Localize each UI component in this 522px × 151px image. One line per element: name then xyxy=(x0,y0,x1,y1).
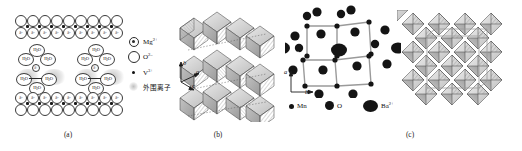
legend-item-o: O2– xyxy=(128,51,153,62)
water-molecule: H2O xyxy=(18,53,34,66)
vanadium-icon xyxy=(128,67,139,78)
oxygen-atom-delta: δ- xyxy=(99,27,111,39)
delta-plus-label: δ+ xyxy=(93,66,97,70)
water-label: H2O xyxy=(103,57,111,62)
figure-root: δ- δ- δ- δ- δ- δ- δ- δ- δ- H2O H2O H2O δ… xyxy=(0,0,522,151)
oxygen-atom xyxy=(87,104,99,116)
delta-plus-label: δ+ xyxy=(34,66,38,70)
axis-label-b: b xyxy=(183,59,186,66)
panel-c-structure: a b Mn O Ba2+ xyxy=(283,2,522,126)
axis-label-a: a xyxy=(196,68,199,75)
mn-icon xyxy=(289,104,294,109)
oxygen-atom-delta: δ- xyxy=(87,27,99,39)
hydrogen-bond xyxy=(88,78,101,79)
panel-c-polyhedral-framework xyxy=(397,10,517,116)
oxygen-atom-delta: δ- xyxy=(27,27,39,39)
water-label: H2O xyxy=(20,77,28,82)
delta-minus-label: δ- xyxy=(103,96,106,100)
axis-label-a: a xyxy=(284,68,287,75)
oxygen-atom-delta: δ- xyxy=(39,27,51,39)
water-label: H2O xyxy=(79,77,87,82)
panel-c-axis-indicator: a b xyxy=(285,68,319,98)
water-label: H2O xyxy=(45,77,53,82)
oxygen-atom xyxy=(63,104,75,116)
caption-b: (b) xyxy=(198,130,238,139)
panel-a-hydration-model: δ- δ- δ- δ- δ- δ- δ- δ- δ- H2O H2O H2O δ… xyxy=(0,0,146,128)
delta-minus-label: δ- xyxy=(43,31,46,35)
water-label: H2O xyxy=(92,86,100,91)
delta-minus-label: δ- xyxy=(67,31,70,35)
delta-minus-label: δ- xyxy=(55,96,58,100)
magnesium-ion: δ+ xyxy=(32,64,40,72)
delta-minus-label: δ- xyxy=(103,31,106,35)
delta-minus-label: δ- xyxy=(31,96,34,100)
delta-minus-label: δ- xyxy=(19,96,22,100)
panel-b-axis-indicator: b a c xyxy=(174,60,204,92)
water-molecule: H2O xyxy=(99,53,115,66)
oxygen-icon xyxy=(325,101,334,110)
oxygen-atom xyxy=(15,104,27,116)
oxygen-atom xyxy=(75,104,87,116)
delta-minus-label: δ- xyxy=(79,96,82,100)
water-molecule: H2O xyxy=(40,53,56,66)
water-label: H2O xyxy=(33,86,41,91)
legend-label: Ba2+ xyxy=(381,101,394,110)
legend-label: Mn xyxy=(297,102,307,110)
delta-minus-label: δ- xyxy=(67,96,70,100)
peripheral-ion-icon xyxy=(128,81,139,92)
hydrogen-bond xyxy=(29,78,42,79)
delta-minus-label: δ- xyxy=(79,31,82,35)
water-label: H2O xyxy=(33,48,41,53)
delta-minus-label: δ- xyxy=(43,96,46,100)
water-label: H2O xyxy=(81,57,89,62)
panel-b-polyhedral-structure: b a c xyxy=(150,2,280,126)
axis-label-c: c xyxy=(192,82,195,89)
oxygen-atom xyxy=(51,104,63,116)
delta-minus-label: δ- xyxy=(115,96,118,100)
water-label: H2O xyxy=(44,57,52,62)
oxygen-icon xyxy=(128,51,139,62)
caption-c: (c) xyxy=(390,130,430,139)
delta-minus-label: δ- xyxy=(91,96,94,100)
oxygen-atom xyxy=(39,104,51,116)
legend-item-ba: Ba2+ xyxy=(363,100,394,112)
legend-label: O xyxy=(337,102,342,110)
oxygen-atom-delta: δ- xyxy=(111,27,123,39)
legend-item-o: O xyxy=(325,101,342,110)
delta-minus-label: δ- xyxy=(55,31,58,35)
oxygen-atom-delta: δ- xyxy=(51,27,63,39)
delta-minus-label: δ- xyxy=(31,31,34,35)
axis-label-b: b xyxy=(305,88,308,95)
ba-icon xyxy=(363,100,378,112)
caption-a: (a) xyxy=(48,130,88,139)
legend-item-mn: Mn xyxy=(289,102,307,110)
delta-minus-label: δ- xyxy=(115,31,118,35)
delta-minus-label: δ- xyxy=(19,31,22,35)
delta-minus-label: δ- xyxy=(91,31,94,35)
water-label: H2O xyxy=(92,48,100,53)
oxygen-atom-delta: δ- xyxy=(15,27,27,39)
water-label: H2O xyxy=(22,57,30,62)
magnesium-ion: δ+ xyxy=(91,64,99,72)
water-label: H2O xyxy=(104,77,112,82)
oxygen-atom xyxy=(99,104,111,116)
oxygen-atom xyxy=(111,104,123,116)
oxygen-atom-delta: δ- xyxy=(63,27,75,39)
oxygen-atom xyxy=(27,104,39,116)
mg-ion-icon xyxy=(128,36,139,47)
oxygen-atom-delta: δ- xyxy=(75,27,87,39)
water-molecule: H2O xyxy=(77,53,93,66)
